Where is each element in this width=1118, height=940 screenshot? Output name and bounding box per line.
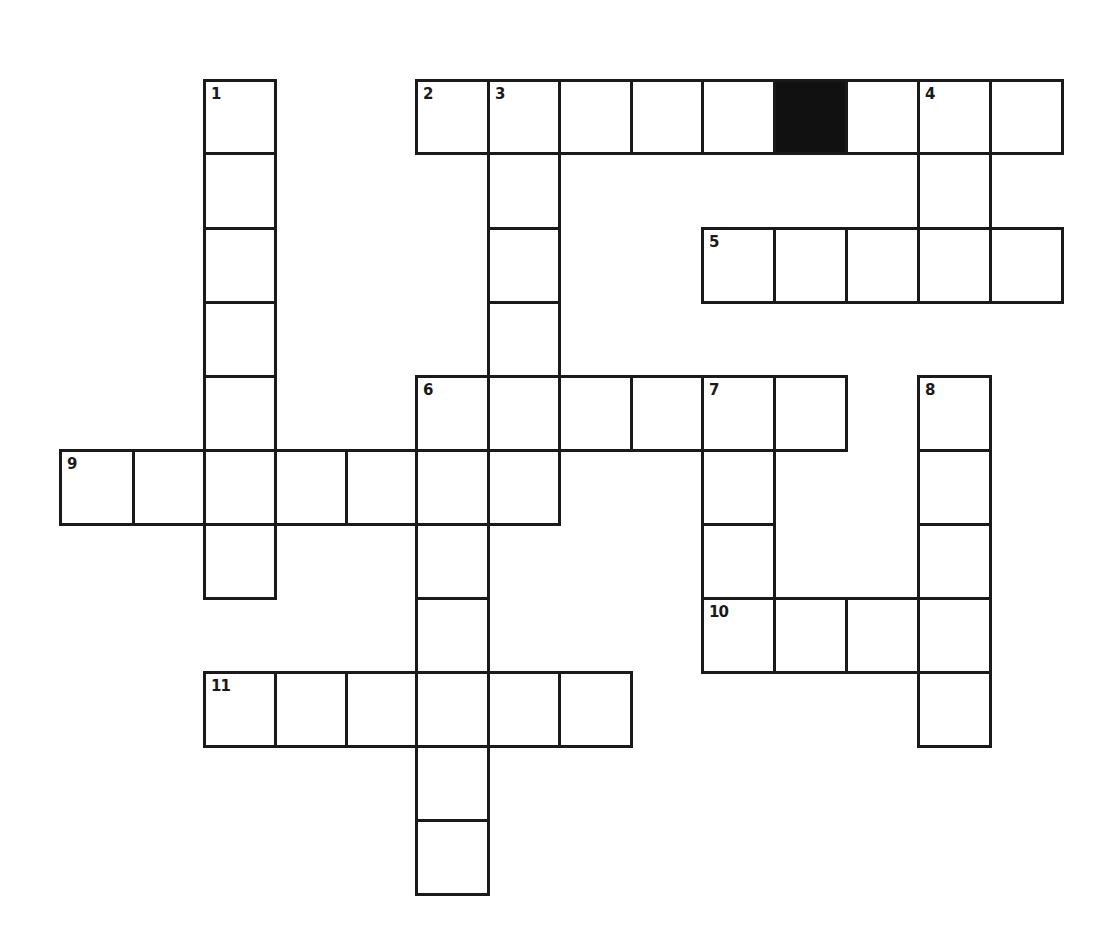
grid-cell-r1c12[interactable] — [917, 152, 992, 230]
grid-cell-r0c8[interactable] — [630, 79, 704, 155]
grid-cell-r4c9[interactable]: 7 — [701, 375, 776, 452]
grid-cell-r8c6[interactable] — [487, 671, 561, 748]
grid-cell-r1c6[interactable] — [487, 152, 561, 230]
grid-cell-r4c8[interactable] — [630, 375, 704, 452]
crossword-grid: 1234567108911 — [0, 0, 1118, 940]
clue-number: 8 — [925, 382, 934, 398]
grid-cell-r5c12[interactable] — [917, 449, 992, 526]
grid-cell-r5c1[interactable] — [132, 449, 206, 526]
grid-cell-r1c2[interactable] — [203, 152, 277, 230]
grid-cell-r5c2[interactable] — [203, 449, 277, 526]
grid-cell-r4c10[interactable] — [773, 375, 848, 452]
grid-cell-r0c9[interactable] — [701, 79, 776, 155]
grid-cell-r4c7[interactable] — [558, 375, 633, 452]
grid-cell-r2c10[interactable] — [773, 227, 848, 304]
grid-cell-r5c0[interactable]: 9 — [59, 449, 135, 526]
grid-cell-r2c11[interactable] — [845, 227, 920, 304]
grid-cell-r5c4[interactable] — [345, 449, 418, 526]
grid-cell-r10c5[interactable] — [415, 819, 490, 896]
grid-cell-r4c2[interactable] — [203, 375, 277, 452]
grid-cell-r3c2[interactable] — [203, 301, 277, 378]
clue-number: 4 — [925, 86, 934, 102]
grid-cell-r5c9[interactable] — [701, 449, 776, 526]
grid-cell-r3c6[interactable] — [487, 301, 561, 378]
black-cell — [773, 79, 848, 155]
grid-cell-r0c6[interactable]: 3 — [487, 79, 561, 155]
clue-number: 2 — [423, 86, 432, 102]
grid-cell-r7c9[interactable]: 10 — [701, 597, 776, 674]
grid-cell-r2c2[interactable] — [203, 227, 277, 304]
clue-number: 7 — [709, 382, 718, 398]
grid-cell-r2c9[interactable]: 5 — [701, 227, 776, 304]
grid-cell-r6c5[interactable] — [415, 523, 490, 600]
grid-cell-r8c5[interactable] — [415, 671, 490, 748]
clue-number: 6 — [423, 382, 432, 398]
grid-cell-r2c13[interactable] — [989, 227, 1064, 304]
grid-cell-r4c5[interactable]: 6 — [415, 375, 490, 452]
grid-cell-r8c7[interactable] — [558, 671, 633, 748]
grid-cell-r8c2[interactable]: 11 — [203, 671, 277, 748]
grid-cell-r4c6[interactable] — [487, 375, 561, 452]
grid-cell-r7c10[interactable] — [773, 597, 848, 674]
clue-number: 9 — [67, 456, 76, 472]
grid-cell-r8c3[interactable] — [274, 671, 348, 748]
clue-number: 3 — [495, 86, 504, 102]
grid-cell-r8c4[interactable] — [345, 671, 418, 748]
grid-cell-r2c6[interactable] — [487, 227, 561, 304]
grid-cell-r0c5[interactable]: 2 — [415, 79, 490, 155]
grid-cell-r0c7[interactable] — [558, 79, 633, 155]
grid-cell-r6c12[interactable] — [917, 523, 992, 600]
grid-cell-r4c12[interactable]: 8 — [917, 375, 992, 452]
clue-number: 1 — [211, 86, 220, 102]
grid-cell-r8c12[interactable] — [917, 671, 992, 748]
clue-number: 10 — [709, 604, 728, 620]
grid-cell-r9c5[interactable] — [415, 745, 490, 822]
grid-cell-r7c5[interactable] — [415, 597, 490, 674]
grid-cell-r5c3[interactable] — [274, 449, 348, 526]
grid-cell-r6c2[interactable] — [203, 523, 277, 600]
grid-cell-r6c9[interactable] — [701, 523, 776, 600]
grid-cell-r0c11[interactable] — [845, 79, 920, 155]
clue-number: 11 — [211, 678, 230, 694]
grid-cell-r0c12[interactable]: 4 — [917, 79, 992, 155]
grid-cell-r5c5[interactable] — [415, 449, 490, 526]
grid-cell-r7c12[interactable] — [917, 597, 992, 674]
clue-number: 5 — [709, 234, 718, 250]
grid-cell-r0c2[interactable]: 1 — [203, 79, 277, 155]
grid-cell-r2c12[interactable] — [917, 227, 992, 304]
grid-cell-r5c6[interactable] — [487, 449, 561, 526]
grid-cell-r7c11[interactable] — [845, 597, 920, 674]
grid-cell-r0c13[interactable] — [989, 79, 1064, 155]
